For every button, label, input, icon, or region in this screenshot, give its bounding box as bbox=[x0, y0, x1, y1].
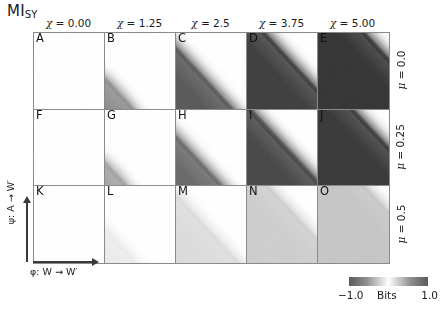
heatmap-panel-E: E bbox=[318, 33, 389, 110]
row-label-mu-0: μ = 0.0 bbox=[392, 32, 408, 109]
panel-letter-E: E bbox=[320, 33, 327, 45]
heatmap-panel-B: B bbox=[105, 33, 176, 110]
colorbar-unit-label: Bits bbox=[377, 288, 397, 302]
panel-letter-L: L bbox=[107, 186, 113, 198]
x-axis-line bbox=[33, 261, 93, 263]
colorbar bbox=[349, 277, 428, 286]
figure-root: MISY χ = 0.00χ = 1.25χ = 2.5χ = 3.75χ = … bbox=[0, 0, 443, 311]
panel-letter-G: G bbox=[107, 110, 116, 122]
heatmap-panel-H: H bbox=[176, 110, 247, 187]
heatmap-panel-K: K bbox=[34, 186, 105, 263]
heatmap-panel-J: J bbox=[318, 110, 389, 187]
heatmap-panel-N: N bbox=[247, 186, 318, 263]
panel-letter-F: F bbox=[36, 110, 43, 122]
heatmap-surface-E bbox=[318, 33, 389, 110]
heatmap-panel-I: I bbox=[247, 110, 318, 187]
column-header-chi-1: χ = 1.25 bbox=[104, 17, 175, 30]
column-header-chi-3: χ = 3.75 bbox=[246, 17, 317, 30]
heatmap-surface-C bbox=[176, 33, 247, 110]
heatmap-panel-A: A bbox=[34, 33, 105, 110]
heatmap-surface-B bbox=[105, 33, 176, 110]
x-axis-arrowhead bbox=[92, 258, 99, 266]
panel-letter-B: B bbox=[107, 33, 115, 45]
row-label-mu-1: μ = 0.25 bbox=[392, 109, 408, 186]
heatmap-surface-I bbox=[247, 110, 318, 187]
heatmap-panel-C: C bbox=[176, 33, 247, 110]
heatmap-panel-G: G bbox=[105, 110, 176, 187]
panel-letter-N: N bbox=[249, 186, 258, 198]
panel-grid: ABCDEFGHIJKLMNO bbox=[33, 32, 390, 264]
panel-letter-H: H bbox=[178, 110, 187, 122]
x-axis-label: φ: W → W′ bbox=[30, 266, 77, 278]
colorbar-min-label: −1.0 bbox=[338, 288, 364, 302]
heatmap-surface-A bbox=[34, 33, 105, 110]
heatmap-panel-D: D bbox=[247, 33, 318, 110]
colorbar-ticklabels: −1.0 Bits 1.0 bbox=[332, 288, 443, 302]
panel-letter-I: I bbox=[249, 110, 252, 122]
y-axis-line bbox=[26, 202, 28, 262]
panel-letter-A: A bbox=[36, 33, 44, 45]
column-header-chi-4: χ = 5.00 bbox=[317, 17, 388, 30]
colorbar-max-label: 1.0 bbox=[421, 288, 438, 302]
panel-letter-M: M bbox=[178, 186, 188, 198]
panel-letter-K: K bbox=[36, 186, 44, 198]
panel-letter-C: C bbox=[178, 33, 186, 45]
colorbar-gradient bbox=[349, 277, 428, 286]
panel-letter-D: D bbox=[249, 33, 258, 45]
column-header-chi-2: χ = 2.5 bbox=[175, 17, 246, 30]
heatmap-surface-K bbox=[34, 186, 105, 263]
column-header-chi-0: χ = 0.00 bbox=[33, 17, 104, 30]
panel-letter-J: J bbox=[320, 110, 323, 122]
heatmap-surface-N bbox=[247, 186, 318, 263]
heatmap-surface-J bbox=[318, 110, 389, 187]
heatmap-surface-L bbox=[105, 186, 176, 263]
figure-title-main: MI bbox=[7, 2, 25, 20]
heatmap-panel-O: O bbox=[318, 186, 389, 263]
heatmap-panel-M: M bbox=[176, 186, 247, 263]
y-axis-arrow bbox=[22, 196, 33, 262]
panel-letter-O: O bbox=[320, 186, 329, 198]
heatmap-surface-F bbox=[34, 110, 105, 187]
y-axis-label: ψ: A → W′ bbox=[5, 169, 17, 235]
row-label-mu-2: μ = 0.5 bbox=[392, 185, 408, 262]
heatmap-panel-L: L bbox=[105, 186, 176, 263]
heatmap-panel-F: F bbox=[34, 110, 105, 187]
